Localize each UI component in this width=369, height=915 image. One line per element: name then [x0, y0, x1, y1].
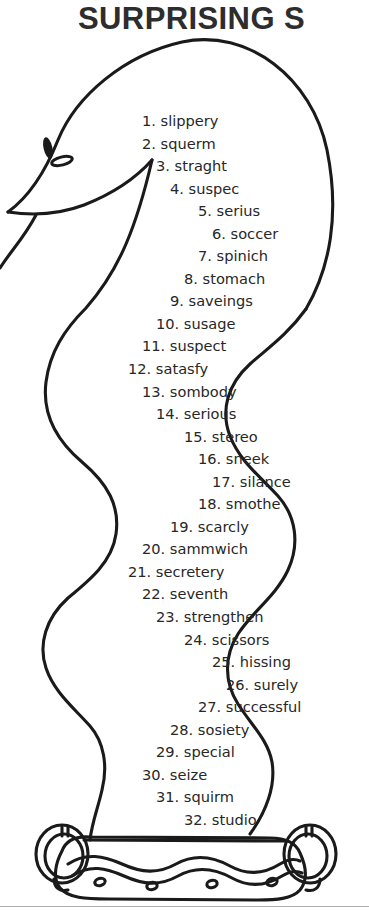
word-list-item-number: 19.: [170, 518, 193, 535]
word-list-item-number: 21.: [128, 563, 151, 580]
word-list-item: 1. slippery: [0, 110, 369, 133]
basket-handle-right-inner: [289, 834, 327, 878]
word-list-item: 26. surely: [0, 674, 369, 697]
word-list-item-word: hissing: [235, 653, 291, 670]
word-list-item: 2. squerm: [0, 133, 369, 156]
word-list-item-word: spinich: [212, 247, 268, 264]
word-list: 1. slippery2. squerm3. straght4. suspec5…: [0, 110, 369, 832]
word-list-item-number: 12.: [128, 360, 151, 377]
word-list-item: 31. squirm: [0, 786, 369, 809]
word-list-item-number: 4.: [170, 180, 184, 197]
word-list-item-word: soccer: [226, 225, 278, 242]
word-list-item-word: strengthen: [179, 608, 263, 625]
word-list-item-word: sombody: [165, 383, 236, 400]
word-list-item: 4. suspec: [0, 178, 369, 201]
word-list-item-word: squirm: [179, 788, 234, 805]
word-list-item-number: 22.: [142, 585, 165, 602]
word-list-item-number: 8.: [184, 270, 198, 287]
basket-dot: [146, 882, 157, 891]
basket-dot: [94, 877, 106, 887]
word-list-item-word: surely: [249, 676, 298, 693]
word-list-item-word: suspec: [184, 180, 239, 197]
word-list-item: 23. strengthen: [0, 606, 369, 629]
word-list-item: 7. spinich: [0, 245, 369, 268]
word-list-item: 10. susage: [0, 313, 369, 336]
word-list-item: 12. satasfy: [0, 358, 369, 381]
word-list-item-number: 24.: [184, 631, 207, 648]
word-list-item: 20. sammwich: [0, 538, 369, 561]
word-list-item-number: 16.: [198, 450, 221, 467]
word-list-item-word: suspect: [165, 337, 226, 354]
word-list-item: 21. secretery: [0, 561, 369, 584]
word-list-item-number: 17.: [212, 473, 235, 490]
word-list-item-word: stereo: [207, 428, 258, 445]
word-list-item: 11. suspect: [0, 335, 369, 358]
word-list-item-number: 25.: [212, 653, 235, 670]
basket-dot: [206, 879, 218, 888]
word-list-item-word: susage: [179, 315, 235, 332]
word-list-item-number: 1.: [142, 112, 156, 129]
worksheet-page: SURPRISING S: [0, 0, 369, 915]
word-list-item-number: 11.: [142, 337, 165, 354]
word-list-item-number: 7.: [198, 247, 212, 264]
word-list-item-number: 13.: [142, 383, 165, 400]
word-list-item-word: squerm: [156, 135, 216, 152]
word-list-item-word: saveings: [184, 292, 253, 309]
word-list-item-word: seize: [165, 766, 207, 783]
word-list-item-number: 10.: [156, 315, 179, 332]
word-list-item-number: 5.: [198, 202, 212, 219]
word-list-item: 19. scarcly: [0, 516, 369, 539]
word-list-item: 32. studio: [0, 809, 369, 832]
word-list-item-word: scarcly: [193, 518, 249, 535]
word-list-item: 3. straght: [0, 155, 369, 178]
word-list-item: 15. stereo: [0, 426, 369, 449]
word-list-item-word: slippery: [156, 112, 219, 129]
word-list-item: 14. serious: [0, 403, 369, 426]
word-list-item-word: sneek: [221, 450, 269, 467]
word-list-item: 27. successful: [0, 696, 369, 719]
basket-handle-left-inner: [45, 834, 83, 878]
word-list-item-number: 18.: [198, 495, 221, 512]
word-list-item: 22. seventh: [0, 583, 369, 606]
word-list-item-word: scissors: [207, 631, 269, 648]
word-list-item-number: 23.: [156, 608, 179, 625]
word-list-item-word: smothe: [221, 495, 280, 512]
word-list-item: 8. stomach: [0, 268, 369, 291]
word-list-item-word: special: [179, 743, 235, 760]
word-list-item-number: 30.: [142, 766, 165, 783]
page-bottom-rule: [0, 906, 369, 907]
word-list-item-word: secretery: [151, 563, 224, 580]
word-list-item: 18. smothe: [0, 493, 369, 516]
word-list-item: 13. sombody: [0, 381, 369, 404]
word-list-item-word: studio: [207, 811, 256, 828]
word-list-item-number: 28.: [170, 721, 193, 738]
word-list-item: 29. special: [0, 741, 369, 764]
word-list-item: 25. hissing: [0, 651, 369, 674]
basket-rim: [84, 840, 286, 841]
word-list-item-word: serious: [179, 405, 236, 422]
word-list-item: 5. serius: [0, 200, 369, 223]
word-list-item: 17. silance: [0, 471, 369, 494]
word-list-item-number: 27.: [198, 698, 221, 715]
word-list-item-number: 15.: [184, 428, 207, 445]
word-list-item-number: 26.: [226, 676, 249, 693]
word-list-item-number: 6.: [212, 225, 226, 242]
word-list-item-word: seventh: [165, 585, 228, 602]
word-list-item-number: 2.: [142, 135, 156, 152]
word-list-item-word: straght: [170, 157, 227, 174]
word-list-item-word: serius: [212, 202, 260, 219]
word-list-item-word: sammwich: [165, 540, 248, 557]
word-list-item: 6. soccer: [0, 223, 369, 246]
word-list-item: 16. sneek: [0, 448, 369, 471]
word-list-item-number: 14.: [156, 405, 179, 422]
word-list-item: 24. scissors: [0, 629, 369, 652]
word-list-item-number: 9.: [170, 292, 184, 309]
word-list-item-word: satasfy: [151, 360, 208, 377]
word-list-item: 28. sosiety: [0, 719, 369, 742]
word-list-item-number: 32.: [184, 811, 207, 828]
word-list-item-word: successful: [221, 698, 301, 715]
word-list-item: 9. saveings: [0, 290, 369, 313]
word-list-item-number: 31.: [156, 788, 179, 805]
word-list-item-word: stomach: [198, 270, 265, 287]
word-list-item-word: silance: [235, 473, 291, 490]
